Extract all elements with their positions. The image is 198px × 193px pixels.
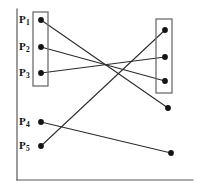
point-dot-P4 [38, 119, 44, 125]
point-dot-R1 [162, 27, 168, 33]
point-label-P1: P1 [19, 14, 29, 25]
point-dots-group [38, 17, 174, 156]
point-label-subscript-P2: 2 [26, 45, 30, 54]
figure-canvas [0, 0, 198, 193]
point-label-P4: P4 [19, 116, 29, 127]
point-label-subscript-P1: 1 [26, 18, 30, 27]
point-dot-R5 [168, 150, 174, 156]
point-dot-R3 [162, 78, 168, 84]
point-label-base-P3: P [19, 66, 26, 78]
edge-p3-r2 [41, 57, 165, 73]
point-dot-P1 [38, 17, 44, 23]
point-dot-P5 [38, 143, 44, 149]
cluster-boxes-group [33, 12, 172, 93]
edge-p5-r1 [41, 30, 165, 146]
point-label-subscript-P4: 4 [26, 120, 30, 129]
point-label-P5: P5 [19, 140, 29, 151]
point-label-base-P4: P [19, 115, 26, 127]
point-label-base-P2: P [19, 40, 26, 52]
point-dot-R4 [165, 105, 171, 111]
point-label-subscript-P3: 3 [26, 71, 30, 80]
point-dot-R2 [162, 54, 168, 60]
axes-group [17, 9, 193, 180]
point-label-P3: P3 [19, 67, 29, 78]
edge-p4-r5 [41, 122, 171, 153]
point-label-base-P1: P [19, 13, 26, 25]
point-correspondence-figure: P1P2P3P4P5 [0, 0, 198, 193]
point-label-base-P5: P [19, 139, 26, 151]
point-label-P2: P2 [19, 41, 29, 52]
point-label-subscript-P5: 5 [26, 144, 30, 153]
edges-group [41, 20, 171, 153]
edge-p2-r3 [41, 47, 165, 81]
point-dot-P2 [38, 44, 44, 50]
point-dot-P3 [38, 70, 44, 76]
